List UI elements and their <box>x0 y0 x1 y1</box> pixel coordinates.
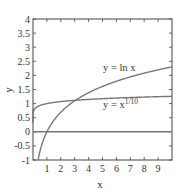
y-axis-title: y <box>2 87 14 93</box>
series-line-1 <box>38 67 172 160</box>
x-tick-label: 3 <box>72 163 77 174</box>
y-tick-label: 0 <box>25 126 30 137</box>
x-tick-label: 7 <box>128 163 133 174</box>
x-tick-label: 9 <box>156 163 161 174</box>
y-tick-label: 1.5 <box>18 84 31 95</box>
y-tick-label: 4 <box>25 14 30 25</box>
plot-frame <box>33 19 172 160</box>
x-tick-label: 6 <box>114 163 119 174</box>
x-tick-label: 1 <box>44 163 49 174</box>
x-tick-label: 2 <box>58 163 63 174</box>
ln-curve-label: y = ln x <box>103 62 136 73</box>
x-tick-label: 8 <box>142 163 147 174</box>
y-tick-label: 2.5 <box>18 56 31 67</box>
y-tick-label: 3.5 <box>18 28 31 39</box>
plot-area: 123456789-1-0.500.511.522.533.54 <box>14 14 172 175</box>
y-tick-label: -0.5 <box>14 140 30 151</box>
x-axis-title: x <box>97 178 103 190</box>
y-tick-label: 2 <box>25 70 30 81</box>
x-tick-label: 5 <box>100 163 105 174</box>
y-tick-label: -1 <box>22 155 30 166</box>
x-tick-label: 4 <box>86 163 91 174</box>
y-tick-label: 0.5 <box>18 112 31 123</box>
chart: 123456789-1-0.500.511.522.533.54 y = ln … <box>0 0 183 194</box>
y-tick-label: 1 <box>25 98 30 109</box>
y-tick-label: 3 <box>25 42 30 53</box>
root-curve-label: y = x1/10 <box>103 97 138 110</box>
